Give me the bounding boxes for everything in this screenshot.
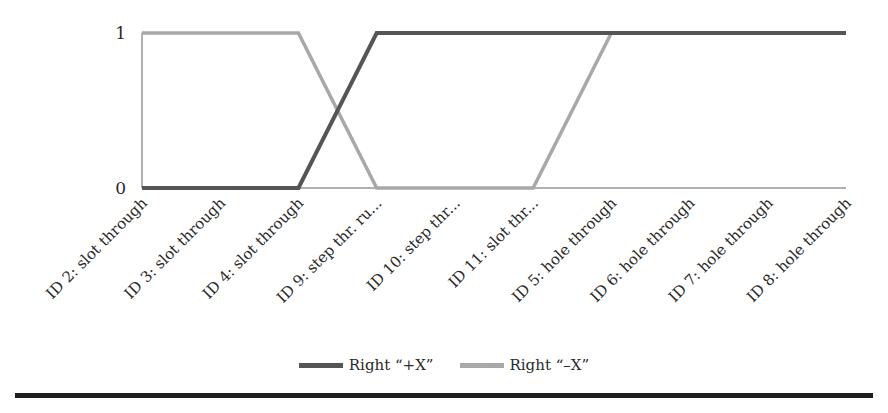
legend-label-minus-x: Right “–X” [510, 356, 590, 374]
bottom-rule-divider [15, 393, 873, 398]
legend-item-plus-x: Right “+X” [299, 356, 434, 374]
x-axis-tick-labels: ID 2: slot throughID 3: slot throughID 4… [42, 194, 855, 307]
series-line-plus-x [142, 33, 846, 188]
series-lines [142, 33, 846, 188]
y-tick-label: 1 [115, 23, 126, 43]
legend-label-plus-x: Right “+X” [349, 356, 434, 374]
y-axis-ticks: 01 [115, 23, 126, 198]
line-chart: 01 ID 2: slot throughID 3: slot throughI… [0, 0, 888, 413]
legend-swatch-plus-x [299, 363, 343, 368]
legend: Right “+X” Right “–X” [0, 356, 888, 374]
y-tick-label: 0 [115, 178, 126, 198]
series-line-minus-x [142, 33, 846, 188]
legend-item-minus-x: Right “–X” [460, 356, 590, 374]
legend-swatch-minus-x [460, 363, 504, 368]
